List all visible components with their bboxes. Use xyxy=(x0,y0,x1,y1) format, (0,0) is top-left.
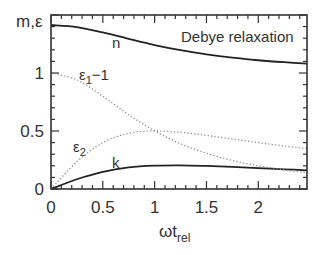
eps2-subscript: 2 xyxy=(80,146,86,158)
y-tick-label: 0.5 xyxy=(20,122,44,141)
y-axis-label: m,ε xyxy=(16,12,43,31)
curve-eps1-minus-1 xyxy=(51,73,310,173)
chart-title: Debye relaxation xyxy=(181,28,294,45)
x-axis-label-subscript: rel xyxy=(177,231,190,245)
curve-k xyxy=(51,165,310,189)
x-axis-label: ωtrel xyxy=(159,222,190,245)
x-tick-label: 1.5 xyxy=(195,198,219,217)
x-tick-label: 2 xyxy=(254,198,263,217)
tick-labels: 00.511.5200.51 xyxy=(20,64,263,217)
x-tick-label: 0.5 xyxy=(91,198,115,217)
x-tick-label: 1 xyxy=(150,198,159,217)
y-tick-label: 1 xyxy=(35,64,44,83)
eps1-suffix: −1 xyxy=(92,66,109,83)
curve-eps2 xyxy=(51,131,310,189)
x-tick-label: 0 xyxy=(46,198,55,217)
curve-label-k: k xyxy=(112,154,120,171)
y-tick-label: 0 xyxy=(35,180,44,199)
data-curves xyxy=(51,25,310,189)
x-axis-label-main: ωt xyxy=(159,222,177,241)
curve-label-eps2: ε2 xyxy=(73,138,86,158)
curve-label-n: n xyxy=(112,34,120,51)
debye-relaxation-chart: 00.511.5200.51 m,ε Debye relaxation n ε1… xyxy=(0,0,320,255)
